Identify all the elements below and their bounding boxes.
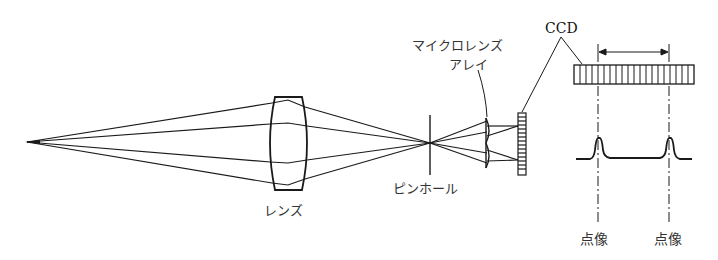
lens-icon [270,97,307,190]
lens-label: レンズ [264,200,303,219]
diagram-drawing [0,0,718,260]
pinhole-label: ピンホール [393,178,458,197]
microlens-to-ccd-rays [487,126,518,161]
refracted-rays-in-lens [270,100,307,185]
point-image-left-label: 点像 [580,228,608,248]
ccd-sensor-side-icon [518,113,526,175]
microlens-array-label-line1: マイクロレンズ [412,35,503,54]
point-image-right-label: 点像 [654,228,682,248]
diverging-rays [430,121,487,163]
optical-diagram: レンズ ピンホール マイクロレンズ アレイ CCD 点像 点像 [0,0,718,260]
ccd-label: CCD [545,20,578,36]
center-lines [598,86,669,225]
converging-rays [305,107,430,179]
incident-rays [27,103,272,183]
ccd-array-front-icon [574,65,694,84]
intensity-profile-curve [576,138,692,159]
microlens-array-label-line2: アレイ [449,54,488,73]
spacing-dimension-arrow [598,44,669,62]
